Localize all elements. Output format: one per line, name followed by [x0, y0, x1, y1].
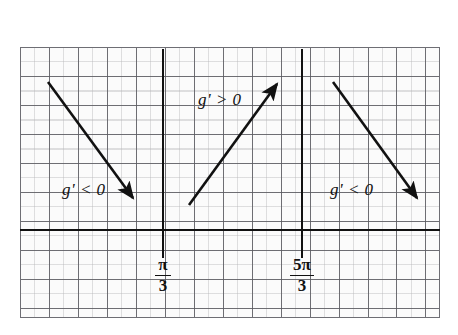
vertical-line-5pi-over-3 [301, 49, 303, 258]
fraction-numerator: 5π [290, 256, 314, 276]
vertical-line-pi-over-3 [162, 49, 164, 258]
tick-label-pi-over-3: π 3 [143, 256, 183, 295]
annotation-g-prime-positive-middle: g' > 0 [198, 90, 242, 110]
x-axis [20, 229, 440, 231]
fraction-5pi-over-3: 5π 3 [290, 256, 314, 295]
tick-label-5pi-over-3: 5π 3 [280, 256, 324, 295]
fraction-numerator: π [155, 256, 170, 276]
annotation-g-prime-negative-left: g' < 0 [62, 180, 106, 200]
figure-root: π 3 5π 3 g' < 0 g' > 0 g' < 0 [0, 0, 458, 335]
fraction-denominator: 3 [290, 276, 314, 295]
annotation-g-prime-negative-right: g' < 0 [330, 180, 374, 200]
fraction-pi-over-3: π 3 [155, 256, 170, 295]
fraction-denominator: 3 [155, 276, 170, 295]
